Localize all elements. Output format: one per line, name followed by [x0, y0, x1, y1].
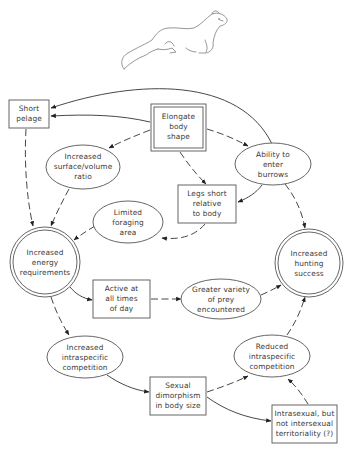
- node-label: Short: [19, 104, 39, 113]
- edge-energy-to-active: [70, 287, 92, 300]
- node-label: of prey: [208, 295, 235, 304]
- node-label: Reduced: [256, 342, 289, 351]
- node-label: not intersexual: [276, 419, 333, 428]
- node-label: hunting: [294, 259, 323, 268]
- node-label: requirements: [20, 268, 71, 277]
- node-label: enter: [263, 160, 284, 169]
- node-label: to body: [193, 209, 222, 218]
- node-label: surface/volume: [54, 162, 113, 171]
- edge-surface-to-energy: [51, 189, 69, 226]
- node-label: intraspecific: [62, 353, 108, 362]
- node-label: pelage: [16, 114, 42, 123]
- node-territoriality: Intrasexual, but not intersexual territo…: [272, 405, 337, 443]
- node-label: relative: [193, 199, 222, 208]
- edge-legs-to-foraging: [162, 224, 205, 238]
- node-increased-intraspecific-competition: Increased intraspecific competition: [47, 336, 123, 378]
- node-label: Elongate: [162, 112, 196, 121]
- node-label: body: [169, 122, 188, 131]
- node-label: Ability to: [256, 150, 290, 159]
- edge-burrows-to-hunting: [285, 184, 305, 228]
- node-label: success: [294, 269, 324, 278]
- edge-energy-to-competition: [51, 297, 69, 335]
- node-increased-energy-requirements: Increased energy requirements: [10, 227, 80, 297]
- node-label: territoriality (?): [276, 429, 334, 438]
- edge-burrows-to-legs: [238, 185, 262, 202]
- node-reduced-intraspecific-competition: Reduced intraspecific competition: [234, 335, 310, 377]
- weasel-illustration: [122, 11, 228, 69]
- diagram-canvas: Short pelage Elongate body shape Increas…: [0, 0, 352, 452]
- node-sexual-dimorphism: Sexual dimorphism in body size: [150, 377, 206, 415]
- node-label: Active at: [105, 284, 139, 293]
- node-active-all-times: Active at all times of day: [93, 280, 150, 318]
- node-legs-short: Legs short relative to body: [178, 185, 236, 223]
- node-label: intraspecific: [249, 352, 295, 361]
- node-greater-variety-of-prey: Greater variety of prey encountered: [181, 279, 261, 319]
- node-label: ratio: [74, 172, 92, 181]
- node-label: Increased: [291, 249, 328, 258]
- node-short-pelage: Short pelage: [9, 100, 49, 128]
- node-label: area: [120, 228, 137, 237]
- edge-elongate-to-burrows: [207, 129, 248, 146]
- edge-reduced-to-hunting: [287, 297, 305, 335]
- edge-pelage-to-energy: [25, 129, 33, 226]
- edge-territoriality-to-reduced: [288, 379, 308, 404]
- edge-dimorphism-to-reduced: [207, 376, 248, 392]
- edge-foraging-to-energy: [74, 226, 95, 240]
- node-label: competition: [62, 363, 107, 372]
- node-label: Increased: [67, 343, 104, 352]
- node-label: Sexual: [165, 381, 190, 390]
- edge-dimorphism-to-territoriality: [207, 397, 271, 421]
- edge-variety-to-hunting: [261, 285, 281, 295]
- node-label: Intrasexual, but: [275, 409, 335, 418]
- node-label: all times: [105, 294, 137, 303]
- node-elongate-body-shape: Elongate body shape: [151, 104, 206, 151]
- node-label: energy: [32, 258, 59, 267]
- node-label: shape: [167, 132, 190, 141]
- edge-elongate-to-surface: [109, 130, 150, 148]
- node-ability-to-enter-burrows: Ability to enter burrows: [235, 143, 311, 185]
- node-label: Increased: [27, 248, 64, 257]
- edge-elongate-to-pelage: [51, 115, 150, 122]
- node-label: encountered: [197, 305, 245, 314]
- node-surface-volume-ratio: Increased surface/volume ratio: [46, 145, 120, 189]
- node-label: Limited: [114, 208, 142, 217]
- node-increased-hunting-success: Increased hunting success: [275, 229, 343, 297]
- node-label: dimorphism: [156, 391, 201, 400]
- node-label: competition: [249, 362, 294, 371]
- node-label: of day: [110, 304, 134, 313]
- node-label: Increased: [65, 152, 102, 161]
- node-limited-foraging-area: Limited foraging area: [93, 201, 163, 243]
- node-label: Legs short: [187, 189, 226, 198]
- node-label: foraging: [112, 218, 144, 227]
- edge-elongate-to-legs: [180, 152, 206, 184]
- node-label: burrows: [258, 170, 288, 179]
- edge-competition-to-dimorphism: [107, 375, 149, 392]
- node-label: in body size: [155, 401, 201, 410]
- node-label: Greater variety: [192, 285, 250, 294]
